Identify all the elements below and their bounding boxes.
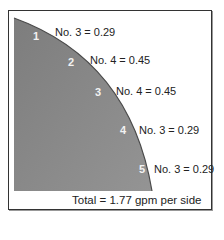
zone-number-3: 3 bbox=[95, 86, 101, 98]
zone-label-1: No. 3 = 0.29 bbox=[55, 26, 115, 38]
zone-number-5: 5 bbox=[139, 163, 145, 175]
total-flow-label: Total = 1.77 gpm per side bbox=[72, 194, 201, 206]
zone-label-2: No. 4 = 0.45 bbox=[90, 54, 150, 66]
zone-number-2: 2 bbox=[68, 56, 74, 68]
zone-label-5: No. 3 = 0.29 bbox=[154, 163, 214, 175]
zone-number-1: 1 bbox=[33, 30, 39, 42]
zone-label-3: No. 4 = 0.45 bbox=[116, 85, 176, 97]
zone-number-4: 4 bbox=[120, 124, 126, 136]
zone-label-4: No. 3 = 0.29 bbox=[139, 124, 199, 136]
